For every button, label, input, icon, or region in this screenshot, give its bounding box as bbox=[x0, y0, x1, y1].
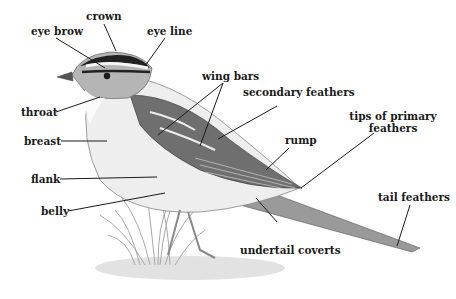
label-belly: belly bbox=[41, 205, 69, 217]
eye-icon bbox=[104, 73, 110, 79]
legs bbox=[168, 210, 215, 258]
label-eye-line: eye line bbox=[147, 25, 192, 37]
label-wing-bars: wing bars bbox=[202, 70, 259, 82]
label-rump: rump bbox=[285, 134, 317, 146]
label-secondary-feathers: secondary feathers bbox=[243, 86, 355, 98]
label-tips-line-2: feathers bbox=[339, 122, 447, 134]
label-tips-of-primary-feathers: tips of primary feathers bbox=[339, 110, 447, 134]
label-flank: flank bbox=[31, 173, 60, 185]
label-undertail-coverts: undertail coverts bbox=[240, 244, 341, 256]
bird-illustration bbox=[0, 0, 456, 299]
bird-anatomy-diagram: crown eye brow eye line wing bars second… bbox=[0, 0, 456, 299]
beak-shape bbox=[57, 72, 73, 81]
label-eye-brow: eye brow bbox=[31, 25, 83, 37]
ground-shadow bbox=[95, 256, 285, 280]
label-breast: breast bbox=[24, 135, 61, 147]
label-tail-feathers: tail feathers bbox=[378, 191, 450, 203]
label-crown: crown bbox=[86, 10, 122, 22]
label-throat: throat bbox=[21, 106, 58, 118]
label-tips-line-1: tips of primary bbox=[339, 110, 447, 122]
